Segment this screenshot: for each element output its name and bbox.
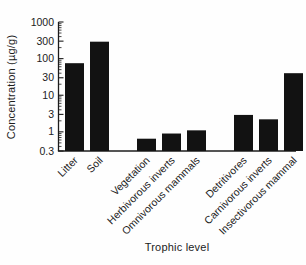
trophic-concentration-chart: 10003001003010310.3LitterSoilVegetationH…	[0, 0, 306, 265]
y-tick-label: 3	[48, 108, 54, 120]
y-tick-label: 1	[48, 125, 54, 137]
bar	[137, 139, 156, 151]
bar	[162, 134, 181, 151]
y-tick-label: 10	[42, 89, 54, 101]
bar	[234, 115, 253, 151]
bar	[259, 119, 278, 151]
y-axis-title: Concentration (µg/g)	[5, 35, 17, 140]
x-category-label: Soil	[84, 154, 105, 175]
bar	[65, 63, 84, 151]
y-tick-label: 30	[42, 71, 54, 83]
bar	[90, 42, 109, 151]
x-axis-title: Trophic level	[58, 241, 296, 253]
bar	[187, 130, 206, 151]
y-tick-label: 0.3	[39, 145, 54, 157]
x-category-label: Litter	[55, 154, 80, 179]
bar-chart-canvas: 10003001003010310.3LitterSoilVegetationH…	[0, 0, 306, 265]
y-tick-label: 100	[36, 52, 54, 64]
y-tick-label: 1000	[31, 16, 55, 28]
y-tick-label: 300	[36, 35, 54, 47]
bar	[284, 73, 303, 151]
